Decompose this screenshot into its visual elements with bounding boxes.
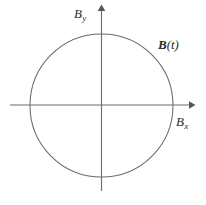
phase-plane-svg [0, 0, 206, 205]
curve-label-base: B [158, 37, 167, 52]
curve-label: B(t) [158, 36, 179, 52]
x-axis-label-base: B [176, 114, 184, 129]
figure-container: By B(t) Bx [0, 0, 206, 205]
x-axis-label-subscript: x [184, 121, 188, 131]
x-axis-label: Bx [176, 113, 188, 131]
curve-label-argument: (t) [167, 37, 179, 52]
y-axis-label: By [74, 5, 86, 23]
y-axis-label-subscript: y [82, 13, 86, 23]
y-axis-label-base: B [74, 6, 82, 21]
x-axis-arrowhead-icon [189, 101, 196, 109]
y-axis-arrowhead-icon [98, 5, 106, 12]
